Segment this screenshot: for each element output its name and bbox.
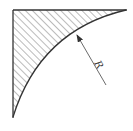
diagram-canvas: R [0, 0, 133, 131]
radius-label: R [92, 58, 106, 71]
fillet-diagram: R [0, 0, 133, 131]
hatched-region [0, 0, 133, 131]
